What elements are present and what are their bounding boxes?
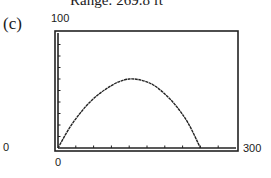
plot-frame <box>55 31 238 151</box>
trajectory-curve <box>58 79 200 148</box>
calculator-graph <box>0 0 271 178</box>
